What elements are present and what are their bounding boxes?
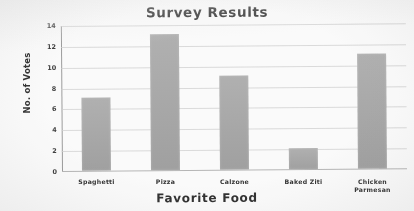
x-tick-label: Pizza [132,178,200,186]
x-tick-label-text: Baked Ziti [285,178,323,185]
y-tick-label: 12 [47,43,56,51]
x-tick-label: Spaghetti [63,178,131,186]
y-axis-title: No. of Votes [22,48,32,118]
gridline [61,23,406,27]
bar [289,148,318,169]
x-tick-label-text: Chicken [358,178,387,185]
x-tick-label: Baked Ziti [270,178,338,186]
y-tick-label: 14 [47,22,56,30]
y-tick-label: 2 [52,147,57,155]
y-tick-label: 0 [52,168,57,176]
bar [357,54,387,169]
gridlines [61,23,406,26]
y-tick-label: 6 [52,105,57,113]
plot-area: 02468101214 [61,23,407,172]
bar [81,98,111,171]
chart-title: Survey Results [0,3,414,21]
y-axis-line [61,26,63,172]
x-tick-label-text: Pizza [156,178,175,185]
bar [150,35,180,171]
y-tick-label: 10 [47,64,56,72]
gridline [61,44,406,48]
y-tick-label: 8 [52,85,57,93]
bar-chart: Survey Results No. of Votes 02468101214 … [0,0,414,211]
gridline [61,65,406,69]
x-tick-label: Calzone [201,178,269,186]
x-axis-title: Favorite Food [0,190,414,206]
bar [219,76,249,170]
y-tick-label: 4 [52,126,57,134]
x-tick-label-text: Calzone [220,178,249,185]
x-tick-label-text: Spaghetti [78,178,114,185]
